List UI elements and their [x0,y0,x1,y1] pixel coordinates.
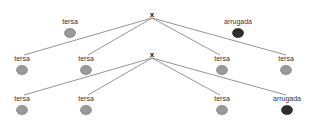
wrinkled-pea-icon [282,106,293,115]
f1-pea-1: tersa [14,55,30,75]
cross-symbol-f1: x [150,50,155,59]
pea-label: tersa [278,55,294,62]
smooth-pea-icon [81,66,92,75]
smooth-pea-icon [81,106,92,115]
wrinkled-pea-icon [233,29,244,38]
pea-label: arrugada [224,18,252,26]
f1-pea-4: tersa [278,55,294,75]
smooth-pea-icon [17,106,28,115]
parent-smooth: tersa [62,18,78,38]
pea-label: tersa [214,95,230,102]
cross-symbol-parents: x [150,10,155,19]
parent-wrinkled: arrugada [224,18,252,38]
pea-label: arrugada [273,95,301,103]
f1-pea-3: tersa [214,55,230,75]
cross-diagram: x x tersa arrugada tersa tersa tersa ter… [0,0,313,125]
pea-label: tersa [14,55,30,62]
cross-lines-f1-to-f2 [24,58,286,95]
smooth-pea-icon [217,106,228,115]
smooth-pea-icon [17,66,28,75]
pea-label: tersa [78,55,94,62]
f1-pea-2: tersa [78,55,94,75]
f2-pea-3: tersa [214,95,230,115]
pea-label: tersa [62,18,78,25]
pea-label: tersa [78,95,94,102]
f2-pea-4: arrugada [273,95,301,115]
smooth-pea-icon [65,29,76,38]
smooth-pea-icon [281,66,292,75]
f2-pea-2: tersa [78,95,94,115]
f2-pea-1: tersa [14,95,30,115]
smooth-pea-icon [217,66,228,75]
pea-label: tersa [14,95,30,102]
pea-label: tersa [214,55,230,62]
